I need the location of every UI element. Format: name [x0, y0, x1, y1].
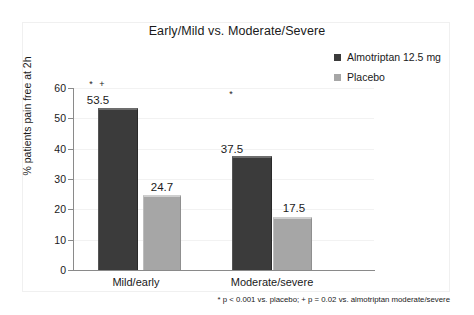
bar-placebo-mild-early[interactable] — [143, 195, 181, 270]
y-axis-tick-labels: 60 50 40 30 20 10 0 — [40, 0, 66, 315]
x-axis-category-label-moderate-severe: Moderate/severe — [202, 276, 342, 288]
bar-placebo-moderate-severe[interactable] — [273, 217, 312, 270]
y-tick-label: 50 — [44, 112, 66, 124]
y-tick-label: 20 — [44, 203, 66, 215]
chart-title: Early/Mild vs. Moderate/Severe — [0, 24, 474, 38]
chart-container: Early/Mild vs. Moderate/Severe Almotript… — [0, 0, 474, 315]
bar-value-label: 17.5 — [264, 202, 324, 214]
bar-value-label: 24.7 — [132, 181, 192, 193]
y-tick-label: 40 — [44, 143, 66, 155]
y-axis-title: % patients pain free at 2h — [21, 36, 33, 196]
y-tick-label: 30 — [44, 173, 66, 185]
x-axis-line — [73, 270, 375, 271]
plot-area — [74, 88, 374, 270]
y-tick-label: 10 — [44, 234, 66, 246]
legend-item-almotriptan[interactable]: Almotriptan 12.5 mg — [334, 52, 474, 63]
significance-marker: * + — [68, 79, 128, 89]
chart-legend: Almotriptan 12.5 mg Placebo — [334, 52, 474, 92]
significance-marker: * — [202, 89, 262, 99]
legend-item-placebo[interactable]: Placebo — [334, 72, 474, 83]
legend-swatch-icon — [334, 54, 341, 61]
bar-value-label: 53.5 — [68, 94, 128, 106]
legend-swatch-icon — [334, 74, 341, 81]
chart-footnote: * p < 0.001 vs. placebo; + p = 0.02 vs. … — [217, 295, 450, 304]
x-axis-category-label-mild-early: Mild/early — [66, 276, 206, 288]
y-tick-label: 0 — [44, 264, 66, 276]
legend-item-label: Almotriptan 12.5 mg — [347, 52, 441, 63]
legend-item-label: Placebo — [347, 72, 385, 83]
y-tick-label: 60 — [44, 82, 66, 94]
bar-value-label: 37.5 — [202, 143, 262, 155]
